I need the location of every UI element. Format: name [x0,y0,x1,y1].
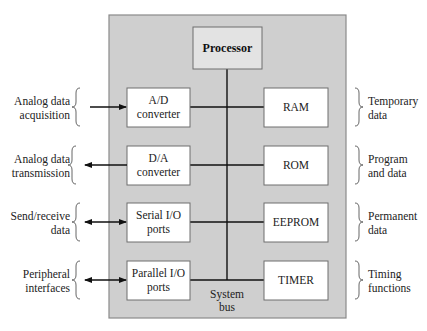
external-label: Analog data [14,95,70,108]
memory-description: Temporary [368,95,419,108]
external-label: Analog data [14,153,70,166]
ram-block: RAM [264,88,328,127]
external-label: Send/receive [11,210,70,222]
memory-description: and data [368,167,407,179]
block-label: Serial I/O [136,209,181,221]
block-label: converter [137,166,181,178]
system-bus-label-line2: bus [219,301,236,313]
left-brace-icon [72,88,80,126]
external-label: acquisition [20,109,71,122]
block-label: converter [137,108,181,120]
processor-block: Processor [193,27,262,69]
eeprom-block: EEPROM [264,203,328,242]
parallel-io-block: Parallel I/O ports [127,261,190,300]
block-label: D/A [149,152,170,164]
memory-description: functions [368,282,411,294]
right-brace-icon [355,261,363,299]
serial-io-block: Serial I/O ports [127,203,190,242]
microcontroller-block-diagram: System bus Processor A/D converter D/A c… [0,0,427,331]
timer-block: TIMER [264,261,328,300]
block-label: ports [147,281,171,294]
right-brace-icon [355,88,363,126]
right-brace-icon [355,203,363,241]
left-brace-icon [72,261,80,299]
memory-description: Timing [368,268,402,281]
memory-description: data [368,224,387,236]
memory-description: Program [368,153,408,166]
block-label: Parallel I/O [132,267,185,279]
block-label: RAM [283,101,309,113]
external-label: data [51,224,70,236]
external-label: transmission [12,167,70,179]
block-label: A/D [149,94,169,106]
memory-description: data [368,109,387,121]
ad-converter-block: A/D converter [127,88,190,127]
right-brace-icon [355,146,363,184]
external-label: interfaces [25,282,70,294]
system-bus-label-line1: System [210,288,244,301]
block-label: TIMER [278,274,314,286]
rom-block: ROM [264,146,328,185]
block-label: ROM [283,159,309,171]
left-brace-icon [72,203,80,241]
external-label: Peripheral [23,268,70,281]
da-converter-block: D/A converter [127,146,190,185]
processor-label: Processor [203,41,253,55]
memory-description: Permanent [368,210,418,222]
block-label: ports [147,223,171,236]
block-label: EEPROM [273,216,320,228]
